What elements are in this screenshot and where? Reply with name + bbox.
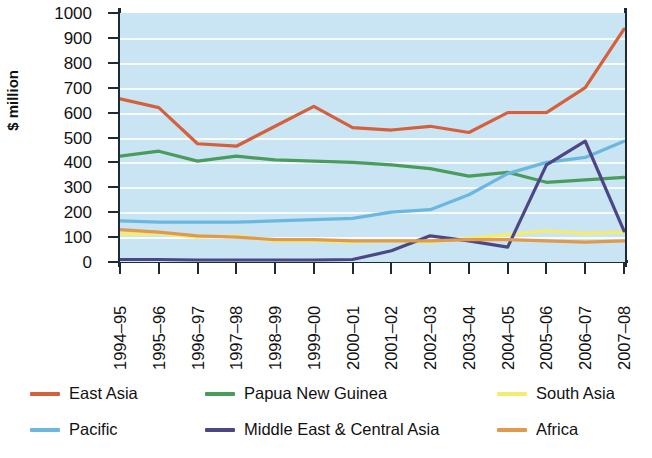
x-axis-tick-label: 2001–02 xyxy=(382,278,396,370)
y-axis-tick-mark xyxy=(108,12,119,14)
x-axis-tick-mark xyxy=(623,263,625,274)
x-axis-tick-mark xyxy=(545,263,547,274)
x-axis-tick-label: 1999–00 xyxy=(305,278,319,370)
x-axis-tick-mark xyxy=(313,263,315,274)
y-axis-tick-label: 100 xyxy=(30,229,92,246)
x-axis-tick-mark xyxy=(429,263,431,274)
x-axis-tick-label: 2000–01 xyxy=(344,278,358,370)
y-axis-tick-label: 500 xyxy=(30,129,92,146)
legend-item[interactable]: Middle East & Central Asia xyxy=(205,420,439,439)
x-axis-tick-mark xyxy=(274,263,276,274)
y-axis-tick-label: 800 xyxy=(30,54,92,71)
x-axis-tick-label: 2007–08 xyxy=(615,278,629,370)
legend-color-swatch xyxy=(30,392,60,396)
x-axis-tick-mark xyxy=(119,263,121,274)
legend-item[interactable]: Papua New Guinea xyxy=(205,384,387,403)
legend-label: East Asia xyxy=(69,384,138,403)
x-axis-tick-mark xyxy=(468,263,470,274)
y-axis-tick-label: 700 xyxy=(30,79,92,96)
legend-item[interactable]: Africa xyxy=(497,420,578,439)
y-axis-tick-label: 400 xyxy=(30,154,92,171)
legend-label: Middle East & Central Asia xyxy=(244,420,439,439)
x-axis-tick-mark xyxy=(235,263,237,274)
x-axis-tick-label: 1996–97 xyxy=(189,278,203,370)
legend-label: Pacific xyxy=(69,420,118,439)
x-axis-tick-label: 2003–04 xyxy=(460,278,474,370)
x-axis-tick-label: 2006–07 xyxy=(576,278,590,370)
y-axis-tick-mark xyxy=(108,37,119,39)
y-axis-tick-mark xyxy=(108,236,119,238)
x-axis-tick-label: 2005–06 xyxy=(537,278,551,370)
legend-label: Africa xyxy=(536,420,578,439)
line-chart: $ million 100090080070060050040030020010… xyxy=(0,0,652,458)
legend-label: Papua New Guinea xyxy=(244,384,387,403)
x-axis-tick-mark xyxy=(390,263,392,274)
x-axis-tick-label: 2002–03 xyxy=(421,278,435,370)
x-axis-tick-mark xyxy=(507,263,509,274)
y-axis-tick-label: 1000 xyxy=(30,5,92,22)
legend-item[interactable]: Pacific xyxy=(30,420,118,439)
y-axis-tick-mark xyxy=(108,261,119,263)
legend-color-swatch xyxy=(497,428,527,432)
x-axis-tick-mark xyxy=(352,263,354,274)
y-axis-tick-mark xyxy=(108,62,119,64)
legend-item[interactable]: South Asia xyxy=(497,384,615,403)
y-axis-tick-mark xyxy=(108,186,119,188)
legend-color-swatch xyxy=(497,392,527,396)
legend-color-swatch xyxy=(30,428,60,432)
y-axis-tick-mark xyxy=(108,112,119,114)
x-axis-tick-label: 1997–98 xyxy=(227,278,241,370)
y-axis-tick-label: 900 xyxy=(30,29,92,46)
x-axis-tick-label: 2004–05 xyxy=(499,278,513,370)
y-axis-tick-label: 0 xyxy=(30,254,92,271)
y-axis-tick-label: 600 xyxy=(30,104,92,121)
y-axis-tick-label: 300 xyxy=(30,179,92,196)
x-axis-tick-label: 1995–96 xyxy=(150,278,164,370)
y-axis-tick-mark xyxy=(108,87,119,89)
legend-color-swatch xyxy=(205,428,235,432)
x-axis-tick-mark xyxy=(158,263,160,274)
x-axis-tick-mark xyxy=(197,263,199,274)
y-axis-tick-mark xyxy=(108,161,119,163)
legend: East AsiaPapua New GuineaSouth AsiaPacif… xyxy=(0,384,652,458)
legend-label: South Asia xyxy=(536,384,615,403)
legend-color-swatch xyxy=(205,392,235,396)
x-axis-tick-mark xyxy=(584,263,586,274)
series-line xyxy=(120,151,624,182)
y-axis-tick-mark xyxy=(108,211,119,213)
x-axis-tick-label: 1998–99 xyxy=(266,278,280,370)
x-axis-tick-label: 1994–95 xyxy=(111,278,125,370)
series-line xyxy=(120,29,624,146)
legend-item[interactable]: East Asia xyxy=(30,384,138,403)
y-axis-tick-label: 200 xyxy=(30,204,92,221)
series-lines xyxy=(120,13,625,262)
y-axis-title: $ million xyxy=(4,70,28,131)
y-axis-tick-mark xyxy=(108,137,119,139)
